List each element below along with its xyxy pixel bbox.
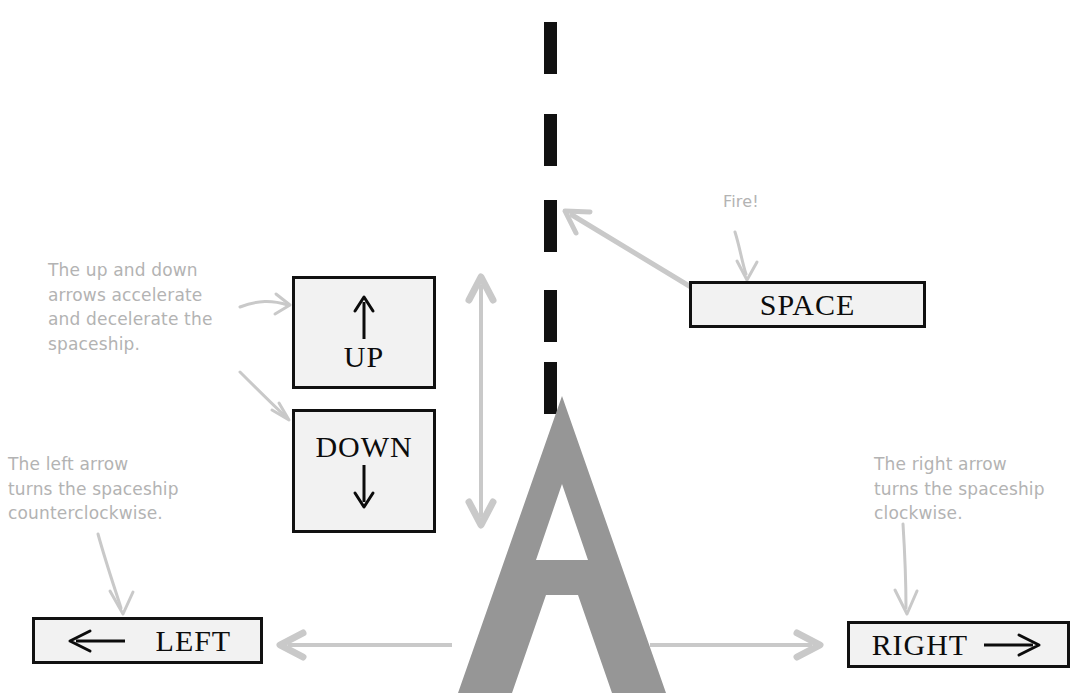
dash-segment (544, 290, 557, 342)
dash-segment (544, 22, 557, 74)
key-down[interactable]: DOWN (292, 409, 436, 533)
down-arrow-glyph (351, 464, 377, 510)
horizontal-right-arrow (650, 633, 820, 657)
key-left[interactable]: LEFT (32, 617, 263, 664)
key-up[interactable]: UP (292, 276, 436, 389)
updown-down-leader-arrow (240, 372, 289, 420)
right-leader-arrow (895, 524, 917, 614)
annotation-left: The left arrow turns the spaceship count… (8, 452, 233, 526)
key-right[interactable]: RIGHT (847, 621, 1070, 668)
up-arrow-glyph (351, 294, 377, 340)
horizontal-left-arrow (280, 633, 452, 657)
key-right-label: RIGHT (872, 630, 968, 660)
annotation-fire: Fire! (723, 190, 813, 213)
right-arrow-glyph (983, 632, 1045, 658)
fire-leader-arrow (735, 232, 757, 280)
key-space[interactable]: SPACE (689, 281, 926, 328)
bullet-dashed-line (544, 22, 557, 414)
key-space-label: SPACE (760, 290, 855, 320)
key-left-label: LEFT (156, 626, 232, 656)
spaceship-letter-a (452, 392, 672, 697)
key-down-label: DOWN (315, 432, 412, 462)
left-arrow-glyph (64, 628, 126, 654)
left-leader-arrow (98, 534, 133, 614)
key-up-label: UP (344, 342, 384, 372)
annotation-up-down: The up and down arrows accelerate and de… (48, 258, 263, 357)
dash-segment (544, 200, 557, 252)
dash-segment (544, 114, 557, 166)
diagram-canvas: UP DOWN LEFT RIGHT SPACE The up and down… (0, 0, 1081, 697)
annotation-right: The right arrow turns the spaceship cloc… (874, 452, 1079, 526)
